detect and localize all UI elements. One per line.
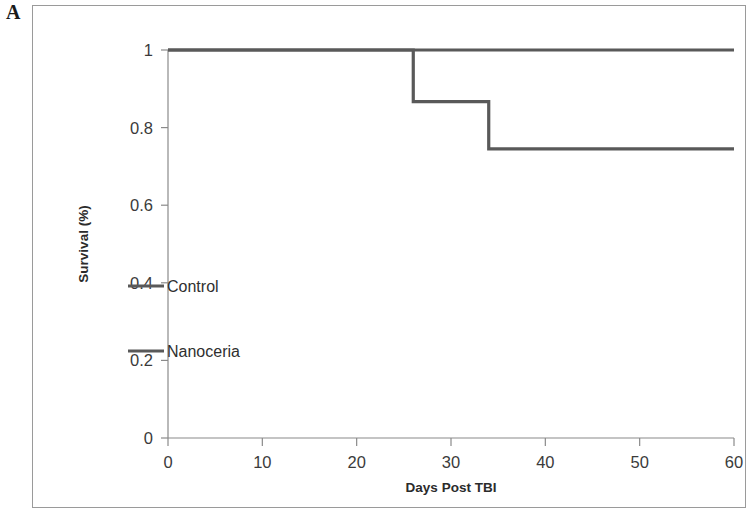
figure-root: A 00.20.40.60.81 0102030405060 ControlNa… bbox=[0, 0, 753, 517]
data-series-group bbox=[168, 50, 734, 149]
panel-label: A bbox=[6, 2, 21, 22]
chart-frame: 00.20.40.60.81 0102030405060 ControlNano… bbox=[32, 5, 746, 508]
axis-group bbox=[168, 50, 734, 438]
x-axis-ticks: 0102030405060 bbox=[163, 438, 743, 471]
x-tick-label: 50 bbox=[630, 453, 648, 471]
survival-curve-chart: 00.20.40.60.81 0102030405060 ControlNano… bbox=[33, 6, 744, 506]
y-tick-label: 1 bbox=[144, 41, 153, 59]
x-tick-label: 30 bbox=[442, 453, 460, 471]
y-tick-label: 0 bbox=[144, 429, 153, 447]
x-axis-title: Days Post TBI bbox=[406, 480, 497, 495]
x-tick-label: 20 bbox=[347, 453, 365, 471]
y-tick-label: 0.8 bbox=[130, 119, 153, 137]
y-tick-label: 0.6 bbox=[130, 196, 153, 214]
y-axis-ticks: 00.20.40.60.81 bbox=[130, 41, 168, 447]
y-tick-label: 0.2 bbox=[130, 351, 153, 369]
series-line-control bbox=[168, 50, 734, 149]
x-tick-label: 60 bbox=[725, 453, 743, 471]
x-tick-label: 10 bbox=[253, 453, 271, 471]
y-axis-title: Survival (%) bbox=[76, 205, 91, 282]
legend-label-control: Control bbox=[167, 278, 219, 295]
x-tick-label: 0 bbox=[163, 453, 172, 471]
legend-label-nanoceria: Nanoceria bbox=[167, 343, 240, 360]
x-tick-label: 40 bbox=[536, 453, 554, 471]
y-tick-label: 0.4 bbox=[130, 274, 153, 292]
